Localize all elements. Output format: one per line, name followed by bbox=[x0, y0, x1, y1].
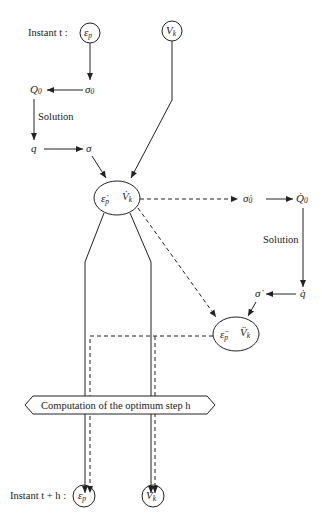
label-solution-right: Solution bbox=[263, 234, 299, 245]
node-eps-bottom: εp bbox=[73, 485, 95, 507]
flow-diagram: Instant t : εp Vk σ0 Q0 Solution q σ ε̇p… bbox=[0, 0, 322, 517]
node-Q0: Q0 bbox=[30, 83, 42, 96]
arrow-sigmadot-acc bbox=[248, 302, 256, 316]
node-acc-ellipse: ε̈p V̈k bbox=[213, 317, 259, 351]
svg-text:V̇k: V̇k bbox=[122, 190, 133, 204]
node-q-dot: q̇ bbox=[300, 287, 306, 299]
line-rate-to-vk-bottom bbox=[130, 213, 151, 493]
node-q: q bbox=[31, 142, 37, 154]
arrow-sigma-rate bbox=[92, 156, 106, 178]
label-solution-left: Solution bbox=[38, 111, 74, 122]
node-sigma: σ bbox=[86, 142, 92, 154]
svg-text:Vk: Vk bbox=[166, 24, 177, 38]
svg-text:ε̈p: ε̈p bbox=[220, 328, 229, 342]
optimum-step-box: Computation of the optimum step h bbox=[25, 396, 215, 414]
node-sigma0-dot: σ̇0 bbox=[243, 192, 252, 205]
arrow-vk-rate bbox=[131, 41, 172, 178]
svg-text:V̈k: V̈k bbox=[240, 326, 251, 340]
node-sigma-dot: σ̇ bbox=[255, 287, 264, 299]
node-Q0-dot: Q̇0 bbox=[296, 192, 308, 205]
node-vk-bottom: Vk bbox=[142, 485, 164, 507]
svg-text:Computation of the optimum ste: Computation of the optimum step h bbox=[41, 400, 191, 411]
node-vk-top: Vk bbox=[162, 21, 182, 41]
line-rate-to-eps-bottom bbox=[85, 213, 104, 493]
label-instant-t: Instant t : bbox=[28, 27, 68, 38]
node-eps-top: εp bbox=[80, 23, 100, 43]
label-instant-t-h: Instant t + h : bbox=[10, 490, 66, 501]
svg-text:ε̇p: ε̇p bbox=[101, 192, 109, 206]
arrow-rate-acc bbox=[138, 208, 216, 317]
svg-text:εp: εp bbox=[84, 26, 92, 40]
node-rate-ellipse: ε̇p V̇k bbox=[94, 181, 140, 215]
node-sigma0: σ0 bbox=[85, 83, 94, 96]
